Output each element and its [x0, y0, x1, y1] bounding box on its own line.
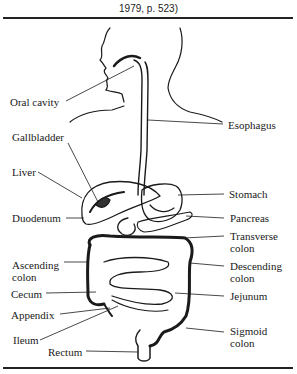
label-appendix: Appendix [11, 309, 54, 321]
label-duodenum: Duodenum [12, 212, 61, 224]
label-descending-colon: Descending colon [230, 260, 282, 284]
label-esophagus: Esophagus [228, 119, 276, 131]
bottom-rule [3, 367, 293, 369]
label-pancreas: Pancreas [230, 212, 269, 224]
label-rectum: Rectum [48, 346, 82, 358]
label-stomach: Stomach [229, 188, 268, 200]
label-oral-cavity: Oral cavity [10, 96, 59, 108]
label-ascending-colon: Ascending colon [12, 259, 59, 283]
label-ileum: Ileum [13, 334, 39, 346]
label-jejunum: Jejunum [230, 290, 267, 302]
label-sigmoid-colon: Sigmoid colon [230, 325, 267, 349]
label-gallbladder: Gallbladder [12, 131, 64, 143]
label-liver: Liver [12, 166, 36, 178]
label-cecum: Cecum [11, 288, 42, 300]
label-transverse-colon: Transverse colon [230, 230, 278, 254]
